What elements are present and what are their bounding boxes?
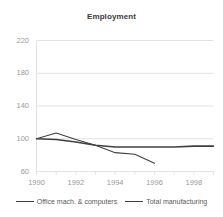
- legend-label-1: Total manufacturing: [146, 198, 207, 205]
- legend-entry-0[interactable]: Office mach. & computers: [16, 198, 117, 205]
- x-tick-label-1994: 1994: [100, 178, 130, 187]
- gridlines: [37, 41, 214, 172]
- series-line-0: [37, 133, 155, 163]
- x-tick-label-1990: 1990: [22, 178, 52, 187]
- x-tick-label-1992: 1992: [61, 178, 91, 187]
- y-tick-label-220: 220: [3, 36, 29, 45]
- legend-line-swatch-icon: [16, 201, 34, 202]
- x-tick-label-1998: 1998: [179, 178, 209, 187]
- series-line-1: [37, 139, 214, 147]
- x-tick-label-1996: 1996: [140, 178, 170, 187]
- y-tick-label-180: 180: [3, 68, 29, 77]
- y-tick-label-100: 100: [3, 134, 29, 143]
- legend-line-swatch-icon: [125, 201, 143, 202]
- y-tick-label-60: 60: [3, 167, 29, 176]
- series-lines: [37, 133, 214, 163]
- legend-entry-1[interactable]: Total manufacturing: [125, 198, 207, 205]
- legend-label-0: Office mach. & computers: [37, 198, 117, 205]
- chart-legend: Office mach. & computersTotal manufactur…: [0, 198, 223, 205]
- y-tick-label-140: 140: [3, 101, 29, 110]
- employment-line-chart: Employment 22018014010060 19901992199419…: [0, 0, 223, 217]
